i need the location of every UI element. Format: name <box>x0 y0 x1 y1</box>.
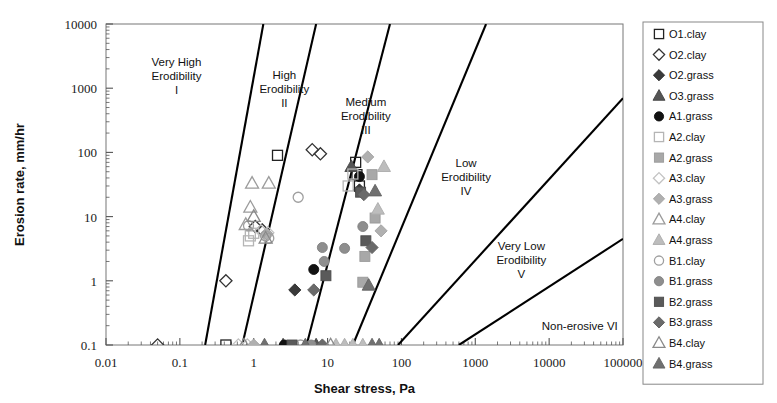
legend-item[interactable]: A2.grass <box>654 152 713 164</box>
legend-item-label: O2.clay <box>669 49 707 61</box>
y-tick-label: 10 <box>84 210 97 225</box>
legend-item-label: B3.grass <box>669 316 713 328</box>
x-tick-label: 10 <box>321 355 334 370</box>
zone-label-line: Non-erosive VI <box>542 320 618 332</box>
erosion-categorization-figure: 0.010.11101001000100001000000.1110100100… <box>0 0 777 403</box>
legend-item-label: O1.clay <box>669 28 707 40</box>
x-axis-title: Shear stress, Pa <box>314 381 416 396</box>
data-point <box>321 271 331 281</box>
zone-label-line: Erodibility <box>152 70 202 82</box>
legend-item-label: A3.grass <box>669 193 713 205</box>
zone-label-line: Erodibility <box>259 83 309 95</box>
y-tick-label: 1000 <box>71 81 97 96</box>
zone-label-line: Very Low <box>498 240 546 252</box>
legend-item-label: A2.grass <box>669 152 713 164</box>
y-tick-label: 10000 <box>65 17 98 32</box>
zone-label-line: Very High <box>152 56 202 68</box>
legend-item-label: A1.grass <box>669 110 713 122</box>
data-point <box>317 243 327 253</box>
legend-item-label: B2.grass <box>669 296 713 308</box>
legend-marker-square-icon <box>654 297 663 306</box>
legend-item-label: B4.grass <box>669 358 713 370</box>
legend-item-label: B4.clay <box>669 337 706 349</box>
zone-label-line: I <box>175 84 178 96</box>
legend: O1.clayO2.clayO2.grassO3.grassA1.grassA2… <box>643 22 763 384</box>
zone-label-line: Medium <box>345 96 386 108</box>
legend-item-label: A4.grass <box>669 234 713 246</box>
y-tick-label: 100 <box>78 145 98 160</box>
data-point <box>367 170 377 180</box>
legend-item-label: A4.clay <box>669 213 706 225</box>
x-tick-label: 0.1 <box>172 355 188 370</box>
data-point <box>358 222 368 232</box>
zone-label-line: II <box>281 97 287 109</box>
y-tick-labels: 0.1110100100010000 <box>65 17 98 353</box>
data-point <box>287 340 297 350</box>
data-point <box>360 251 370 261</box>
x-tick-label: 10000 <box>533 355 566 370</box>
zone-label-line: IV <box>461 185 472 197</box>
data-point <box>319 256 329 266</box>
legend-item-label: A2.clay <box>669 131 706 143</box>
x-tick-label: 100 <box>392 355 412 370</box>
data-point <box>340 243 350 253</box>
legend-marker-circle-icon <box>654 112 663 121</box>
x-tick-labels: 0.010.1110100100010000100000 <box>95 355 643 370</box>
legend-item-label: B1.clay <box>669 255 706 267</box>
zone-label-line: III <box>361 124 371 136</box>
data-point <box>354 172 364 182</box>
legend-item-label: A3.clay <box>669 172 706 184</box>
zone-label-VI: Non-erosive VI <box>542 320 618 332</box>
x-tick-label: 1000 <box>462 355 488 370</box>
zone-label-line: Erodibility <box>441 171 491 183</box>
data-point <box>309 264 319 274</box>
legend-item[interactable]: B2.grass <box>654 296 713 308</box>
y-tick-label: 0.1 <box>81 338 97 353</box>
zone-label-line: Erodibility <box>341 110 391 122</box>
legend-marker-circle-icon <box>654 277 663 286</box>
legend-item-label: O2.grass <box>669 69 714 81</box>
x-tick-label: 100000 <box>604 355 643 370</box>
x-tick-label: 1 <box>250 355 257 370</box>
zone-label-line: Erodibility <box>496 254 546 266</box>
zone-label-line: Low <box>456 157 478 169</box>
chart-svg: 0.010.11101001000100001000000.1110100100… <box>0 0 777 403</box>
legend-marker-square-icon <box>654 153 663 162</box>
zone-label-line: V <box>517 268 525 280</box>
x-tick-label: 0.01 <box>95 355 118 370</box>
zone-label-line: High <box>273 69 297 81</box>
legend-item-label: B1.grass <box>669 275 713 287</box>
y-axis-title: Erosion rate, mm/hr <box>12 123 27 246</box>
y-tick-label: 1 <box>91 274 98 289</box>
legend-item-label: O3.grass <box>669 90 714 102</box>
